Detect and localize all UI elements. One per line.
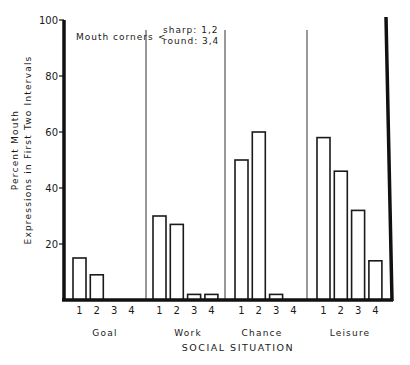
x-axis-title: SOCIAL SITUATION xyxy=(182,342,294,353)
group-label-work: Work xyxy=(174,328,202,338)
x-tick-label: 4 xyxy=(372,305,378,316)
bar-leisure-2 xyxy=(334,171,347,300)
y-ticks: 20406080100 xyxy=(39,15,64,250)
group-label-chance: Chance xyxy=(242,328,283,338)
x-tick-label: 1 xyxy=(76,305,82,316)
group-label-goal: Goal xyxy=(92,328,117,338)
bar-leisure-1 xyxy=(317,138,330,300)
group-label-leisure: Leisure xyxy=(330,328,371,338)
annotation-round: round: 3,4 xyxy=(163,36,219,46)
x-tick-label: 2 xyxy=(94,305,100,316)
annotation-prefix: Mouth corners xyxy=(76,32,154,42)
x-tick-label: 2 xyxy=(256,305,262,316)
group-labels: GoalWorkChanceLeisure xyxy=(92,328,370,338)
bar-work-2 xyxy=(170,224,183,300)
bar-chance-2 xyxy=(252,132,265,300)
right-axis xyxy=(386,17,392,301)
x-tick-labels: 1234123412341234 xyxy=(76,305,378,316)
bar-chart: 20406080100 1234123412341234 GoalWorkCha… xyxy=(0,0,410,365)
x-tick-label: 3 xyxy=(273,305,279,316)
bar-goal-1 xyxy=(73,258,86,300)
x-tick-label: 3 xyxy=(191,305,197,316)
x-tick-label: 2 xyxy=(174,305,180,316)
y-tick-label: 40 xyxy=(45,183,58,194)
bars-layer xyxy=(73,132,382,300)
x-tick-label: 1 xyxy=(320,305,326,316)
x-tick-label: 1 xyxy=(238,305,244,316)
bar-leisure-3 xyxy=(352,210,365,300)
y-axis-title-line1: Percent Mouth xyxy=(10,110,20,191)
y-tick-label: 60 xyxy=(45,127,58,138)
y-tick-label: 100 xyxy=(39,15,58,26)
x-tick-label: 1 xyxy=(156,305,162,316)
x-tick-label: 4 xyxy=(290,305,296,316)
x-tick-label: 3 xyxy=(111,305,117,316)
y-axis-title-line2: Expressions in First Two Intervals xyxy=(23,56,33,245)
x-tick-label: 4 xyxy=(128,305,134,316)
x-tick-label: 4 xyxy=(208,305,214,316)
x-tick-label: 3 xyxy=(355,305,361,316)
x-tick-label: 2 xyxy=(338,305,344,316)
annotation-sharp: sharp: 1,2 xyxy=(163,25,219,35)
y-tick-label: 80 xyxy=(45,71,58,82)
bar-leisure-4 xyxy=(369,261,382,300)
bar-goal-2 xyxy=(90,275,103,300)
bar-work-1 xyxy=(153,216,166,300)
y-tick-label: 20 xyxy=(45,239,58,250)
bar-chance-1 xyxy=(235,160,248,300)
